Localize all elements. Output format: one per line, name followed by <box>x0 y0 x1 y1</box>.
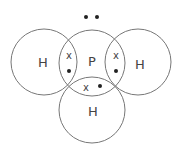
bond-bottom-dot-electron <box>98 84 102 88</box>
atom-label-h-bottom: H <box>88 104 98 119</box>
dot-and-cross-diagram: H P H H x x x <box>0 0 184 152</box>
lone-pair-electron-2 <box>95 15 99 19</box>
bond-bottom-cross-electron: x <box>83 82 89 93</box>
bond-left-cross-electron: x <box>66 50 72 61</box>
bond-left-dot-electron <box>67 69 71 73</box>
lone-pair-electron-1 <box>84 15 88 19</box>
bond-right-dot-electron <box>114 69 118 73</box>
atom-label-h-right: H <box>135 57 145 72</box>
bond-right-cross-electron: x <box>113 50 119 61</box>
atom-label-p: P <box>88 54 96 69</box>
atom-label-h-left: H <box>38 55 48 70</box>
